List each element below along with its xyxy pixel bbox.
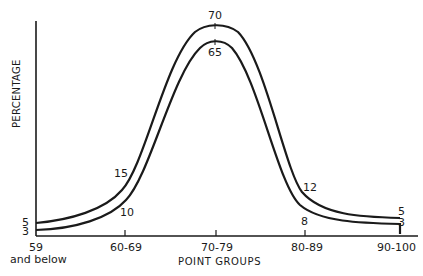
y-axis-title: PERCENTAGE [11,59,22,128]
y-tick-label-3: 3 [22,226,29,238]
chart-canvas [0,0,423,276]
annotation-inner-80: 8 [301,216,308,228]
annotation-outer-80: 12 [303,182,317,194]
annotation-outer-60: 15 [114,168,128,180]
annotation-outer-peak: 70 [208,10,222,22]
inner-curve [36,41,400,234]
x-tick-label-80-89: 80-89 [291,242,323,254]
x-tick-label-and-below: and below [10,254,67,266]
x-tick-label-60-69: 60-69 [110,242,142,254]
annotation-inner-end: 3 [398,217,405,229]
x-tick-label-70-79: 70-79 [201,242,233,254]
annotation-inner-peak: 65 [208,47,222,59]
annotation-inner-60: 10 [120,207,134,219]
x-tick-label-90-100: 90-100 [377,242,416,254]
x-axis-title: POINT GROUPS [178,256,261,267]
